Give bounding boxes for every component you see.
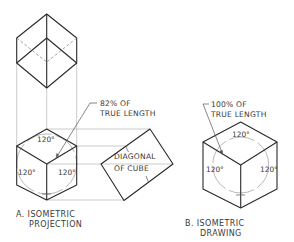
leader-text-100-line2: TRUE LENGTH — [210, 110, 267, 119]
angle-label-top-a: 120° — [37, 135, 55, 144]
leader-text-82-line1: 82% OF — [100, 99, 131, 108]
isometric-diagram: 120° 120° 120° 82% OF TRUE LENGTH DIAGON… — [0, 0, 294, 242]
angle-label-right-a: 120° — [58, 168, 76, 177]
leader-text-100-line1: 100% OF — [211, 100, 247, 109]
caption-b-line2: DRAWING — [200, 229, 242, 238]
leader-text-82-line2: TRUE LENGTH — [99, 109, 156, 118]
angle-label-left-b: 120° — [206, 165, 224, 174]
angle-label-right-b: 120° — [260, 165, 278, 174]
diagonal-text-line1: DIAGONAL — [114, 152, 156, 161]
angle-label-top-b: 120° — [232, 130, 250, 139]
caption-a-line1: A. ISOMETRIC — [16, 210, 75, 219]
projection-lines — [17, 63, 173, 200]
top-cube — [17, 14, 77, 88]
angle-label-left-a: 120° — [18, 168, 36, 177]
diagonal-text-line2: OF CUBE — [114, 164, 149, 173]
caption-b-line1: B. ISOMETRIC — [185, 219, 244, 228]
caption-a-line2: PROJECTION — [29, 220, 82, 229]
